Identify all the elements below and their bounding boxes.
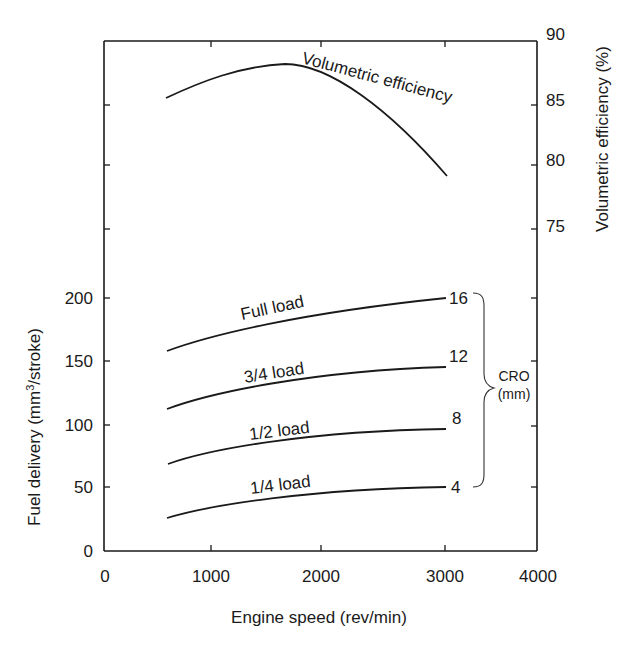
y-tick-50: 50 bbox=[74, 478, 93, 497]
cro-16: 16 bbox=[449, 289, 468, 308]
y-tick-200: 200 bbox=[65, 289, 93, 308]
ve-curve-label: Volumetric efficiency bbox=[300, 49, 455, 108]
three-quarter-load-curve bbox=[167, 367, 446, 409]
cro-label-line1: CRO bbox=[498, 368, 529, 384]
cro-12: 12 bbox=[449, 347, 468, 366]
ve-tick-80: 80 bbox=[546, 151, 565, 170]
half-load-label: 1/2 load bbox=[248, 418, 310, 444]
y-right-axis-title: Volumetric efficiency (%) bbox=[593, 46, 612, 232]
right-axis-ticks bbox=[531, 105, 537, 487]
quarter-load-label: 1/4 load bbox=[249, 472, 311, 498]
left-tick-labels: 200 150 100 50 0 bbox=[65, 289, 93, 561]
ve-tick-75: 75 bbox=[546, 217, 565, 236]
left-axis-ticks bbox=[104, 105, 110, 487]
quarter-load-curve bbox=[167, 487, 446, 518]
full-load-curve bbox=[167, 298, 446, 351]
x-tick-3000: 3000 bbox=[426, 567, 464, 586]
cro-brace bbox=[473, 293, 494, 487]
engine-performance-chart: 0 1000 2000 3000 4000 200 150 100 50 0 9… bbox=[0, 0, 624, 645]
y-tick-0: 0 bbox=[84, 542, 93, 561]
cro-8: 8 bbox=[452, 409, 461, 428]
x-tick-1000: 1000 bbox=[192, 567, 230, 586]
right-tick-labels: 90 85 80 75 bbox=[546, 25, 565, 236]
ve-tick-85: 85 bbox=[546, 91, 565, 110]
x-tick-0: 0 bbox=[100, 567, 109, 586]
x-axis-title: Engine speed (rev/min) bbox=[231, 608, 407, 627]
cro-4: 4 bbox=[451, 478, 460, 497]
x-tick-4000: 4000 bbox=[519, 567, 557, 586]
y-axis-title: Fuel delivery (mm3/stroke) bbox=[24, 328, 44, 526]
ve-tick-90: 90 bbox=[546, 25, 565, 44]
x-tick-labels: 0 1000 2000 3000 4000 bbox=[100, 567, 557, 586]
x-axis-ticks bbox=[211, 41, 445, 551]
y-tick-100: 100 bbox=[65, 416, 93, 435]
y-tick-150: 150 bbox=[65, 352, 93, 371]
cro-label-line2: (mm) bbox=[498, 386, 531, 402]
plot-frame bbox=[104, 41, 537, 551]
x-tick-2000: 2000 bbox=[302, 567, 340, 586]
